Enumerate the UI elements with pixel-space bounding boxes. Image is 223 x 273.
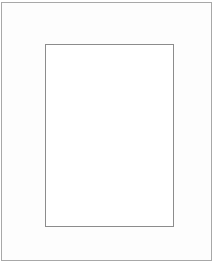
outer-frame [1,2,212,261]
inner-blank-panel [45,44,174,227]
